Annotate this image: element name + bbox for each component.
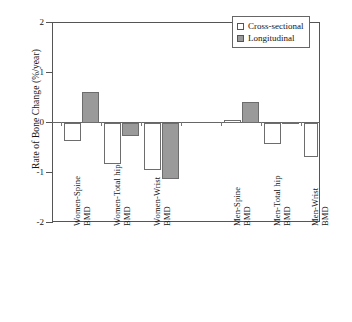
legend-label-cross-sectional: Cross-sectional: [248, 22, 304, 31]
x-tick-mark: [61, 122, 62, 126]
legend-item-cross-sectional[interactable]: Cross-sectional: [237, 20, 304, 32]
bar-cross-sectional-men-wrist[interactable]: [304, 123, 318, 157]
x-tick-mark: [261, 122, 262, 126]
legend: Cross-sectional Longitudinal: [232, 16, 310, 48]
legend-item-longitudinal[interactable]: Longitudinal: [237, 32, 304, 44]
y-tick-label-neg1: -1: [4, 168, 44, 177]
y-tick-label-neg2: -2: [4, 218, 44, 227]
y-tick-label-2: 2: [4, 18, 44, 27]
bar-longitudinal-men-spine[interactable]: [242, 102, 259, 123]
x-axis-label-women-total-hip: Women-Total hip: [112, 164, 122, 226]
bar-cross-sectional-men-total-hip[interactable]: [264, 123, 281, 144]
bar-chart: Rate of Bone Change (%/year) 2 1 0 -1 -2…: [0, 0, 352, 322]
legend-swatch-cross-sectional-icon: [237, 23, 244, 30]
y-tick-label-0: 0: [4, 118, 44, 127]
x-tick-mark: [181, 122, 182, 126]
x-axis-label-men-wrist-bmd: BMD: [320, 206, 330, 226]
legend-swatch-longitudinal-icon: [237, 35, 244, 42]
bar-longitudinal-women-wrist[interactable]: [162, 123, 179, 179]
y-tick-label-1: 1: [4, 68, 44, 77]
bar-cross-sectional-women-spine[interactable]: [64, 123, 81, 141]
x-axis-label-women-total-hip-bmd: BMD: [122, 206, 132, 226]
bar-longitudinal-men-total-hip[interactable]: [282, 122, 299, 124]
y-tick-mark-neg2: [46, 222, 53, 223]
legend-label-longitudinal: Longitudinal: [248, 34, 295, 43]
x-tick-mark: [301, 122, 302, 126]
x-axis-label-women-spine: Women-Spine: [72, 176, 82, 226]
x-axis-label-men-spine-bmd: BMD: [242, 206, 252, 226]
x-axis-label-women-spine-bmd: BMD: [82, 206, 92, 226]
bar-cross-sectional-women-wrist[interactable]: [144, 123, 161, 170]
x-axis-label-men-wrist: Men-Wrist: [310, 188, 320, 226]
x-tick-mark: [141, 122, 142, 126]
bar-longitudinal-women-total-hip[interactable]: [122, 123, 139, 136]
bar-cross-sectional-men-spine[interactable]: [224, 120, 241, 123]
x-axis-label-men-total-hip-bmd: BMD: [282, 206, 292, 226]
bar-cross-sectional-women-total-hip[interactable]: [104, 123, 121, 164]
x-tick-mark: [101, 122, 102, 126]
x-tick-mark: [221, 122, 222, 126]
x-axis-label-men-total-hip: Men-Total hip: [272, 175, 282, 226]
bar-longitudinal-women-spine[interactable]: [82, 92, 99, 123]
x-axis-label-men-spine: Men-Spine: [232, 187, 242, 226]
x-axis-label-women-wrist: Women-Wrist: [152, 177, 162, 226]
y-axis-title: Rate of Bone Change (%/year): [31, 29, 41, 189]
x-axis-label-women-wrist-bmd: BMD: [162, 206, 172, 226]
